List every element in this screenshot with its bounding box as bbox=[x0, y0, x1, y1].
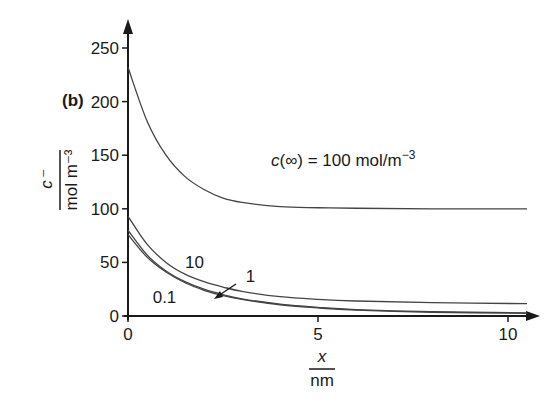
y-axis-arrow-icon bbox=[123, 19, 133, 34]
curves bbox=[128, 67, 527, 313]
y-axis-label: c⁻ mol m⁻³ bbox=[37, 149, 81, 210]
panel-label: (b) bbox=[62, 91, 84, 110]
series-line-0-1 bbox=[128, 235, 527, 314]
series-line-c-100 bbox=[128, 67, 527, 209]
y-tick-label: 0 bbox=[110, 307, 119, 326]
x-axis-label-numerator: x bbox=[317, 347, 327, 366]
y-axis-label-denominator: mol m⁻³ bbox=[62, 149, 81, 210]
annotation: c(∞) = 100 mol/m−3 bbox=[271, 148, 416, 170]
x-axis-label: x nm bbox=[309, 347, 335, 390]
y-tick-label: 250 bbox=[91, 39, 119, 58]
curve-label: 1 bbox=[246, 267, 255, 286]
x-tick-label: 5 bbox=[313, 325, 322, 344]
y-tick-label: 50 bbox=[100, 253, 119, 272]
x-axis-label-denominator: nm bbox=[310, 371, 334, 390]
y-tick-label: 150 bbox=[91, 146, 119, 165]
x-tick-label: 0 bbox=[123, 325, 132, 344]
x-tick-label: 10 bbox=[499, 325, 518, 344]
curve-label: 10 bbox=[185, 253, 204, 272]
chart-canvas: 0501001502002500510 (b) c(∞) = 100 mol/m… bbox=[0, 0, 559, 406]
x-axis-arrow-icon bbox=[526, 311, 540, 321]
y-axis-label-numerator: c⁻ bbox=[37, 169, 56, 189]
y-tick-label: 200 bbox=[91, 93, 119, 112]
labels: (b) c(∞) = 100 mol/m−3 c⁻ mol m⁻³ x nm 1… bbox=[37, 91, 416, 390]
curve-label: 0.1 bbox=[153, 288, 177, 307]
y-tick-label: 100 bbox=[91, 200, 119, 219]
